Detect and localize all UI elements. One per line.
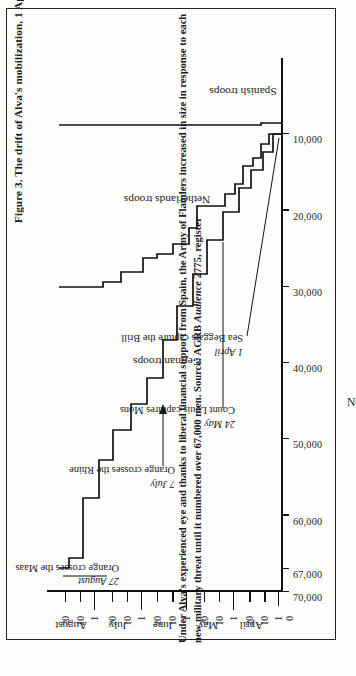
chart-area: 70,000 67,000 60,000 50,000 40,000 30,00… (0, 0, 356, 676)
annotation-24-may-text: Count Louis captures Mons (120, 405, 235, 416)
annotation-1-april: 1 April (215, 347, 243, 358)
annotation-date: 27 August (78, 575, 119, 588)
value-axis-title: Number of troops (347, 396, 356, 409)
chart-plot: 70,000 67,000 60,000 50,000 40,000 30,00… (47, 40, 309, 636)
annotation-7-july-text: Orange crosses the Rhine (69, 465, 175, 476)
figure-page: Figure 3. The drift of Alva's mobilizati… (0, 0, 356, 676)
annotation-27-august: 27 August (78, 575, 119, 588)
annotation-24-may: 24 May (204, 419, 235, 430)
annotation-27-august-text: Orange crosses the Maas (15, 563, 119, 574)
series-label-german: German troops (133, 356, 201, 368)
annotation-7-july: 7 July (150, 479, 175, 490)
annotation-1-april-text: Sea Beggars capture the Brill (121, 333, 243, 344)
series-label-netherlands: Netherlands troops (124, 194, 210, 206)
series-label-spanish: Spanish troops (209, 86, 276, 98)
